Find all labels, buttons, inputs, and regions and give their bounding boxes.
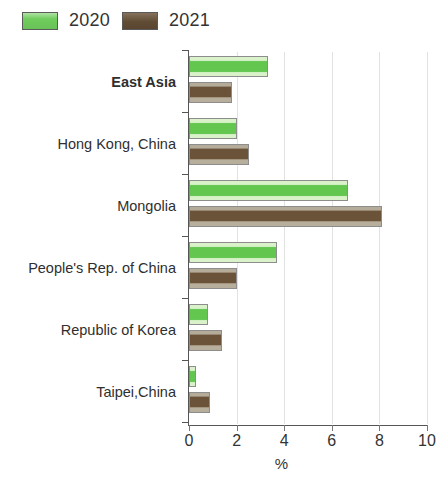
x-axis-tick-label: 2 bbox=[217, 432, 257, 450]
legend-label-2021: 2021 bbox=[169, 10, 210, 31]
bar-2020 bbox=[189, 242, 277, 263]
x-axis-tick bbox=[379, 425, 380, 431]
bar-2021 bbox=[189, 268, 237, 289]
y-axis-tick bbox=[182, 174, 189, 175]
plot-area bbox=[189, 52, 427, 424]
x-axis-tick-label: 4 bbox=[264, 432, 304, 450]
bar-2021 bbox=[189, 206, 382, 227]
x-axis-tick-labels: 0246810 bbox=[0, 432, 443, 454]
y-axis-label: Mongolia bbox=[0, 198, 176, 214]
bar-2020 bbox=[189, 56, 268, 77]
y-axis-tick bbox=[182, 360, 189, 361]
y-axis-tick bbox=[182, 422, 189, 423]
bar-2020 bbox=[189, 180, 348, 201]
y-axis-tick bbox=[182, 236, 189, 237]
legend-label-2020: 2020 bbox=[69, 10, 110, 31]
legend-item-2020: 2020 bbox=[22, 10, 110, 31]
bar-2021 bbox=[189, 144, 249, 165]
y-axis-labels: East AsiaHong Kong, ChinaMongoliaPeople'… bbox=[0, 52, 182, 424]
bar-group bbox=[189, 300, 427, 362]
x-axis-tick bbox=[284, 425, 285, 431]
y-axis-tick bbox=[182, 112, 189, 113]
x-axis-tick bbox=[332, 425, 333, 431]
bar-2020 bbox=[189, 118, 237, 139]
bar-group bbox=[189, 114, 427, 176]
x-axis-title-text: % bbox=[275, 455, 288, 472]
x-axis-tick bbox=[189, 425, 190, 431]
bar-2021 bbox=[189, 392, 210, 413]
y-axis-label: People's Rep. of China bbox=[0, 260, 176, 276]
bar-2020 bbox=[189, 366, 196, 387]
bar-2021 bbox=[189, 82, 232, 103]
y-axis-tick bbox=[182, 298, 189, 299]
x-axis-tick bbox=[237, 425, 238, 431]
legend-swatch-2021 bbox=[122, 12, 158, 30]
legend-swatch-2020 bbox=[22, 12, 58, 30]
x-axis-title: % bbox=[0, 455, 443, 472]
y-axis-label: Republic of Korea bbox=[0, 322, 176, 338]
y-axis-label: Hong Kong, China bbox=[0, 136, 176, 152]
bar-group bbox=[189, 176, 427, 238]
x-axis-tick-label: 0 bbox=[169, 432, 209, 450]
x-axis-tick bbox=[427, 425, 428, 431]
bar-2021 bbox=[189, 330, 222, 351]
x-axis-tick-label: 6 bbox=[312, 432, 352, 450]
bar-group bbox=[189, 52, 427, 114]
bar-2020 bbox=[189, 304, 208, 325]
legend-item-2021: 2021 bbox=[122, 10, 210, 31]
y-axis-label: East Asia bbox=[0, 74, 176, 90]
x-axis-tick-label: 10 bbox=[407, 432, 443, 450]
gridline-10 bbox=[427, 52, 428, 424]
y-axis-tick bbox=[182, 50, 189, 51]
x-axis-spine bbox=[188, 425, 427, 426]
bar-group bbox=[189, 238, 427, 300]
chart-legend: 2020 2021 bbox=[0, 0, 443, 42]
x-axis-tick-label: 8 bbox=[359, 432, 399, 450]
y-axis-label: Taipei,China bbox=[0, 384, 176, 400]
bar-group bbox=[189, 362, 427, 424]
